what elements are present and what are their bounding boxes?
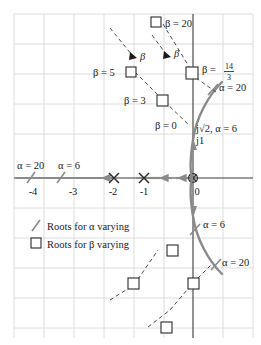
label-alpha-20-lower: α = 20 [222, 257, 249, 268]
label-beta-5: β = 5 [93, 67, 115, 78]
beta-square-l1 [167, 245, 178, 256]
beta-square-l2 [128, 278, 139, 289]
label-alpha-20-axis: α = 20 [17, 160, 44, 171]
label-beta-14-over-3: β = 14 3 [202, 62, 234, 82]
legend-slash-icon [32, 220, 40, 231]
legend-label-beta: Roots for β varying [47, 239, 130, 250]
label-beta-20: β = 20 [165, 18, 192, 29]
legend: Roots for α varying Roots for β varying [31, 220, 130, 250]
beta-square-20 [151, 17, 161, 27]
beta-square-l3 [188, 278, 199, 289]
beta-square-l4 [161, 322, 172, 333]
label-j-sqrt2-alpha-6: j√2, α = 6 [195, 123, 237, 134]
legend-label-alpha: Roots for α varying [47, 221, 130, 232]
label-beta-arrow-1: β [173, 48, 180, 59]
legend-square-icon [31, 238, 41, 248]
label-beta-arrow-2: β [139, 51, 146, 62]
beta-arrow-heads [129, 51, 171, 60]
label-alpha-6-lower: α = 6 [203, 219, 225, 230]
beta-square-5 [126, 67, 136, 77]
tick-label-minus1: -1 [140, 186, 149, 197]
label-j1: j1 [195, 135, 204, 146]
root-locus-figure: β = 20 β β β = 5 β = 14 3 α = 20 β = 3 β… [0, 0, 261, 345]
beta-dashed-upper-right [163, 24, 216, 92]
tick-label-minus2: -2 [109, 186, 118, 197]
beta-square-14-3 [186, 67, 198, 79]
tick-label-minus3: -3 [69, 186, 78, 197]
tick-label-0: 0 [194, 186, 199, 197]
plot-canvas: β = 20 β β β = 5 β = 14 3 α = 20 β = 3 β… [0, 0, 261, 345]
tick-label-minus4: -4 [29, 186, 38, 197]
beta-arrow-stem-1 [110, 28, 132, 55]
label-beta-3: β = 3 [124, 95, 146, 106]
label-beta-frac-num: 14 [225, 62, 233, 71]
label-alpha-20-upper: α = 20 [219, 82, 246, 93]
label-alpha-6-axis: α = 6 [58, 160, 80, 171]
beta-square-markers [126, 17, 199, 333]
beta-square-3 [157, 95, 168, 106]
label-beta-frac-den: 3 [227, 73, 231, 82]
beta-dashed-lower-right [148, 264, 212, 327]
label-beta-0: β = 0 [155, 120, 177, 131]
label-beta-frac-lead: β = [202, 64, 216, 75]
